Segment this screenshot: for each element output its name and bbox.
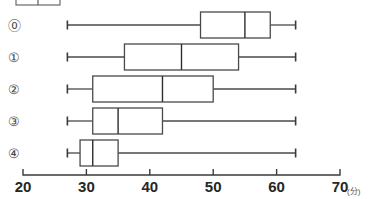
x-tick-label: 60	[268, 178, 285, 195]
row-label: ⓪	[8, 18, 21, 33]
box-plot-svg: ⓪①②③④ 203040506070 (分)	[0, 0, 369, 199]
interquartile-box	[93, 76, 213, 102]
interquartile-box	[201, 12, 271, 38]
boxes-group	[67, 12, 295, 166]
clipped-partial-box-above	[4, 0, 72, 5]
box-plot-chart: ⓪①②③④ 203040506070 (分)	[0, 0, 369, 199]
box-plot-row	[67, 44, 295, 70]
interquartile-box	[80, 140, 118, 166]
x-tick-label: 40	[141, 178, 158, 195]
row-label: ③	[8, 114, 20, 129]
x-axis: 203040506070 (分)	[15, 169, 361, 196]
x-tick-label: 30	[78, 178, 95, 195]
row-label: ①	[8, 50, 20, 65]
x-axis-ticks	[86, 169, 276, 175]
row-labels-group: ⓪①②③④	[8, 18, 21, 161]
x-axis-tick-labels: 203040506070	[15, 178, 349, 195]
box-plot-row	[67, 140, 295, 166]
axis-unit-label: (分)	[347, 187, 361, 196]
x-tick-label: 70	[332, 178, 349, 195]
box-plot-row	[67, 108, 295, 134]
box-plot-row	[67, 12, 295, 38]
row-label: ②	[8, 82, 20, 97]
box-plot-row	[67, 76, 295, 102]
interquartile-box	[93, 108, 163, 134]
x-tick-label: 20	[15, 178, 32, 195]
row-label: ④	[8, 146, 20, 161]
x-tick-label: 50	[205, 178, 222, 195]
